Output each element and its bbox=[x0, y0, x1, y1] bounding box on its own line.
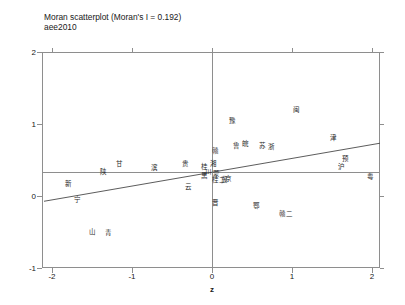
x-tick-top-2 bbox=[372, 48, 373, 52]
x-tick-top-0 bbox=[212, 48, 213, 52]
scatter-point-label: 浙 bbox=[268, 144, 275, 151]
y-tick-label-2: 2 bbox=[24, 48, 36, 57]
chart-subtitle: aee2010 bbox=[44, 22, 77, 32]
scatter-point-label: 黑 bbox=[201, 173, 208, 180]
y-tick-right-0 bbox=[380, 196, 384, 197]
y-tick-2 bbox=[37, 52, 42, 53]
x-tick-label--2: -2 bbox=[48, 272, 55, 281]
y-tick-0 bbox=[37, 196, 42, 197]
x-tick-label-0: 0 bbox=[210, 272, 214, 281]
x-axis-title: z bbox=[210, 285, 214, 294]
y-tick--1 bbox=[37, 268, 42, 269]
y-tick-right--1 bbox=[380, 268, 384, 269]
scatter-point-label: 新 bbox=[65, 181, 72, 188]
scatter-point-label: 宁 bbox=[74, 196, 81, 203]
moran-scatterplot-figure: Moran scatterplot (Moran's I = 0.192) ae… bbox=[0, 0, 405, 305]
chart-title: Moran scatterplot (Moran's I = 0.192) bbox=[44, 12, 181, 22]
scatter-point-label: 苏 bbox=[259, 142, 266, 149]
scatter-point-label: 津 bbox=[330, 135, 337, 142]
x-tick-top--1 bbox=[132, 48, 133, 52]
scatter-point-label: 豫 bbox=[229, 118, 236, 125]
y-tick-label--1: -1 bbox=[24, 264, 36, 273]
scatter-point-label: 贵 bbox=[182, 161, 189, 168]
x-tick-top--2 bbox=[52, 48, 53, 52]
x-tick-label-1: 1 bbox=[290, 272, 294, 281]
scatter-point-label: 皖 bbox=[242, 141, 249, 148]
y-tick-label-1: 1 bbox=[24, 120, 36, 129]
scatter-point-label: 沪 bbox=[338, 164, 345, 171]
y-tick-right-2 bbox=[380, 52, 384, 53]
scatter-point-label: 滨 bbox=[151, 165, 158, 172]
scatter-point-label: 粤 bbox=[367, 174, 374, 181]
x-tick-label--1: -1 bbox=[128, 272, 135, 281]
scatter-point-label: 鄂 bbox=[253, 203, 260, 210]
scatter-point-label: 闽 bbox=[293, 106, 300, 113]
scatter-point-label: 甘 bbox=[116, 161, 123, 168]
y-tick-1 bbox=[37, 124, 42, 125]
scatter-point-label: 云 bbox=[185, 184, 192, 191]
scatter-point-label: 陕 bbox=[100, 169, 107, 176]
y-tick-right-1 bbox=[380, 124, 384, 125]
y-tick-label-0: 0 bbox=[24, 192, 36, 201]
scatter-point-label: 京 bbox=[225, 175, 232, 182]
scatter-point-label: 晋 bbox=[212, 200, 219, 207]
scatter-point-label: 赣二 bbox=[279, 211, 293, 218]
x-tick-label-2: 2 bbox=[370, 272, 374, 281]
scatter-point-label: 湘 bbox=[210, 160, 217, 167]
x-tick-top-1 bbox=[292, 48, 293, 52]
scatter-point-label: 预 bbox=[342, 155, 349, 162]
scatter-point-label: 赣 bbox=[212, 148, 219, 155]
scatter-point-label: 鲁 bbox=[233, 142, 240, 149]
scatter-point-label: 山 bbox=[89, 229, 96, 236]
scatter-point-label: 青 bbox=[105, 229, 112, 236]
